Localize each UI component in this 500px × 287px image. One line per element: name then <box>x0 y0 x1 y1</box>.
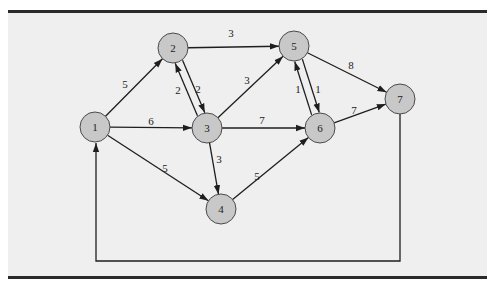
node-6: 6 <box>305 113 335 143</box>
edge-3-to-5 <box>218 56 283 117</box>
edge-4-to-6 <box>233 137 309 199</box>
network-graph: 56532237351187 1234567 <box>0 0 500 287</box>
edge-1-to-2 <box>106 59 163 117</box>
edge-weight-2-5: 3 <box>228 27 234 39</box>
node-1: 1 <box>80 112 110 142</box>
edge-weight-5-6: 1 <box>295 83 301 95</box>
edge-weight-5-7: 8 <box>348 59 354 71</box>
edge-weight-1-4: 5 <box>162 162 168 174</box>
edge-weight-2-3: 2 <box>175 84 181 96</box>
edge-2-to-3 <box>183 60 205 112</box>
node-4: 4 <box>206 194 236 224</box>
edge-labels-layer: 56532237351187 <box>122 27 357 182</box>
node-label: 7 <box>397 93 403 105</box>
edge-2-to-5 <box>188 46 279 48</box>
edge-weight-3-5: 3 <box>244 74 250 86</box>
edge-weight-6-7: 7 <box>351 104 357 116</box>
edge-weight-1-3: 6 <box>148 115 154 127</box>
edge-weight-4-6: 5 <box>254 170 260 182</box>
edge-weight-3-4: 3 <box>216 153 222 165</box>
node-2: 2 <box>158 33 188 63</box>
edge-1-to-3 <box>110 127 192 128</box>
node-label: 6 <box>317 122 323 134</box>
node-label: 2 <box>170 42 176 54</box>
node-label: 5 <box>291 40 297 52</box>
node-7: 7 <box>385 84 415 114</box>
edge-weight-1-2: 5 <box>122 78 128 90</box>
edge-weight-6-5: 1 <box>315 83 321 95</box>
edge-3-to-4 <box>210 143 219 194</box>
node-label: 4 <box>218 203 224 215</box>
edge-weight-3-2: 2 <box>195 83 201 95</box>
node-3: 3 <box>192 113 222 143</box>
node-label: 1 <box>92 121 98 133</box>
node-5: 5 <box>279 31 309 61</box>
edge-6-to-7 <box>334 104 386 123</box>
edge-1-to-4 <box>108 135 209 201</box>
node-label: 3 <box>204 122 210 134</box>
edge-weight-3-6: 7 <box>259 114 265 126</box>
